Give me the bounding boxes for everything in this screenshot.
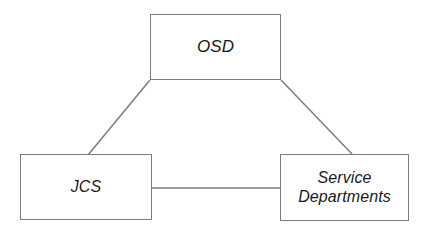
node-service-departments-label: Service Departments <box>298 169 391 207</box>
edge-osd-to-service-departments <box>281 80 352 154</box>
node-osd: OSD <box>150 14 281 80</box>
node-service-departments: Service Departments <box>280 154 409 221</box>
node-jcs: JCS <box>20 154 152 220</box>
edge-osd-to-jcs <box>88 80 150 155</box>
node-jcs-label: JCS <box>71 178 102 197</box>
diagram-canvas: OSD JCS Service Departments <box>0 0 430 237</box>
node-osd-label: OSD <box>197 37 234 57</box>
